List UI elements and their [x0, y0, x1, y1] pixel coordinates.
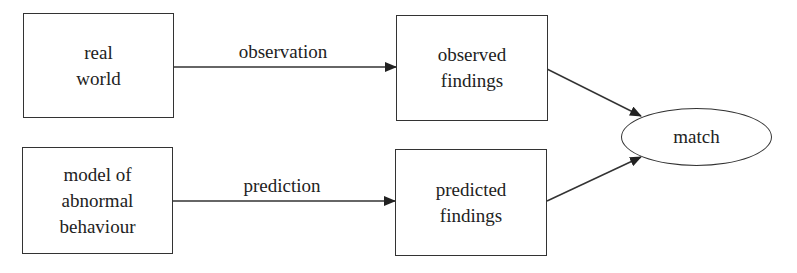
- node-text: model of: [63, 162, 131, 188]
- node-text: predicted: [436, 177, 507, 203]
- node-text: behaviour: [60, 214, 136, 240]
- node-model-abnormal-behaviour: model of abnormal behaviour: [22, 147, 173, 254]
- edge-label-prediction: prediction: [243, 175, 320, 197]
- edge-observed-to-match: [547, 69, 641, 116]
- node-predicted-findings: predicted findings: [395, 149, 547, 256]
- node-text: world: [76, 66, 120, 92]
- node-text: real: [84, 40, 112, 66]
- node-text: match: [673, 124, 719, 150]
- node-text: findings: [441, 68, 503, 94]
- node-real-world: real world: [23, 13, 174, 118]
- node-text: abnormal: [62, 188, 134, 214]
- node-observed-findings: observed findings: [396, 15, 548, 121]
- edge-predicted-to-match: [547, 157, 641, 201]
- node-match: match: [621, 108, 772, 166]
- edge-label-observation: observation: [239, 41, 328, 63]
- node-text: observed: [438, 42, 507, 68]
- node-text: findings: [440, 203, 502, 229]
